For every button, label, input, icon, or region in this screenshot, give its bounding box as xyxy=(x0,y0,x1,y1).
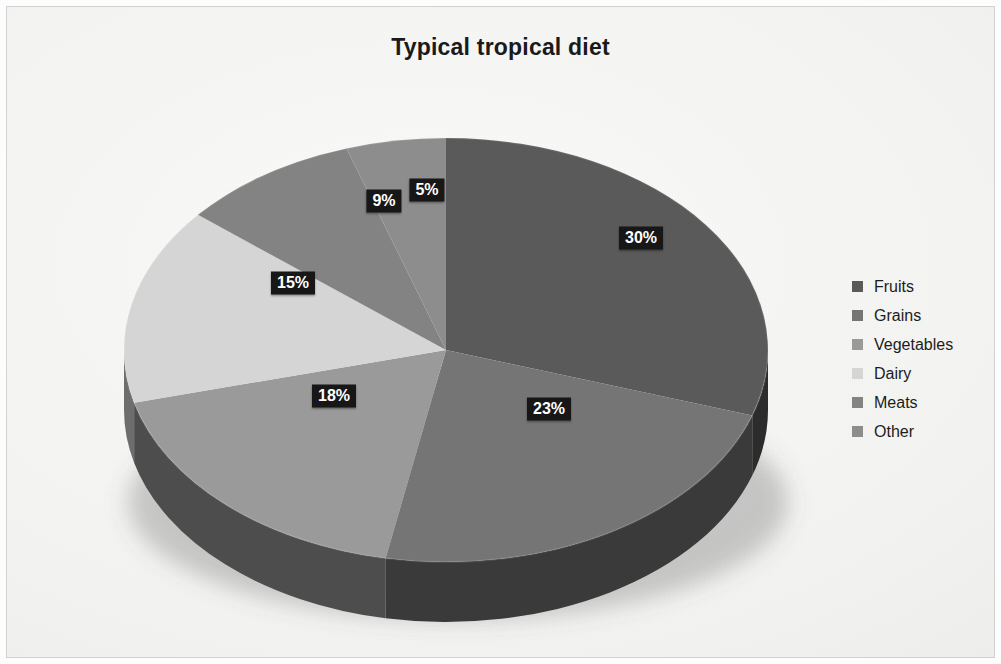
legend-label-dairy: Dairy xyxy=(874,365,911,383)
legend-label-meats: Meats xyxy=(874,394,918,412)
chart-title: Typical tropical diet xyxy=(0,34,1001,61)
legend-swatch-other xyxy=(852,426,863,437)
chart-legend: Fruits Grains Vegetables Dairy Meats Oth… xyxy=(852,272,992,446)
legend-item-other[interactable]: Other xyxy=(852,417,992,446)
legend-swatch-dairy xyxy=(852,368,863,379)
legend-swatch-grains xyxy=(852,310,863,321)
legend-item-fruits[interactable]: Fruits xyxy=(852,272,992,301)
legend-item-vegetables[interactable]: Vegetables xyxy=(852,330,992,359)
legend-swatch-meats xyxy=(852,397,863,408)
legend-label-other: Other xyxy=(874,423,914,441)
legend-swatch-vegetables xyxy=(852,339,863,350)
legend-label-fruits: Fruits xyxy=(874,278,914,296)
legend-item-grains[interactable]: Grains xyxy=(852,301,992,330)
slice-label-meats: 9% xyxy=(366,190,401,213)
legend-item-dairy[interactable]: Dairy xyxy=(852,359,992,388)
slice-label-fruits: 30% xyxy=(619,227,663,250)
chart-page: Typical tropical diet 30% 23% 18% 15% 9%… xyxy=(0,0,1001,664)
pie-top-faces xyxy=(124,138,768,562)
pie-chart-svg xyxy=(96,82,796,592)
legend-label-vegetables: Vegetables xyxy=(874,336,953,354)
slice-label-vegetables: 18% xyxy=(312,385,356,408)
slice-label-other: 5% xyxy=(409,179,444,202)
slice-label-grains: 23% xyxy=(527,398,571,421)
legend-label-grains: Grains xyxy=(874,307,921,325)
legend-swatch-fruits xyxy=(852,281,863,292)
pie-chart: 30% 23% 18% 15% 9% 5% xyxy=(96,82,796,592)
slice-label-dairy: 15% xyxy=(271,272,315,295)
legend-item-meats[interactable]: Meats xyxy=(852,388,992,417)
